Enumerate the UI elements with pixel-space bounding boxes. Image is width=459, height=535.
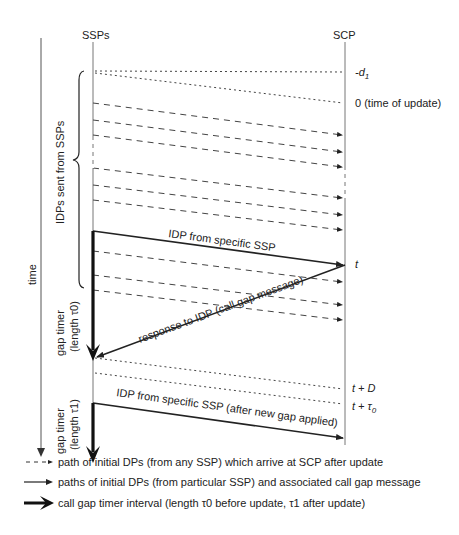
- legend: path of initial DPs (from any SSP) which…: [24, 456, 421, 510]
- response-message: response to IDP (call gap message): [97, 265, 345, 357]
- gap-timer-0-arrow: gap timer (length τ0): [54, 231, 100, 361]
- gap-timer-0-line1: gap timer: [54, 310, 66, 356]
- response-label: response to IDP (call gap message): [137, 273, 305, 345]
- idp-specific-label: IDP from specific SSP: [168, 227, 277, 253]
- call-gap-timing-diagram: SSPs SCP time IDPs sent from SSPs I: [0, 0, 459, 535]
- gap-timer-1-arrow: gap timer (length τ1): [54, 399, 100, 463]
- gap-timer-1-line2: (length τ1): [68, 399, 80, 450]
- idp-after-gap-message: IDP from specific SSP (after new gap app…: [93, 386, 343, 438]
- svg-text:paths of initial DPs (from par: paths of initial DPs (from particular SS…: [58, 476, 421, 488]
- legend-item-solid: paths of initial DPs (from particular SS…: [24, 476, 421, 488]
- idps-brace: IDPs sent from SSPs: [54, 71, 84, 288]
- time-arrow-icon: [37, 448, 45, 457]
- scp-time-marks: -d1 0 (time of update) t t + D t + τ0: [352, 66, 441, 415]
- mark-zero: 0 (time of update): [355, 97, 441, 109]
- mark-t-plus-tau0: t + τ: [352, 400, 373, 412]
- svg-text:t + τ0: t + τ0: [352, 400, 377, 415]
- mark-t-plus-D: t + D: [352, 382, 376, 394]
- ssps-lane-label: SSPs: [82, 29, 110, 41]
- scp-lane-label: SCP: [333, 29, 356, 41]
- mark-minus-d1: -d1: [355, 66, 369, 81]
- brace-label: IDPs sent from SSPs: [54, 120, 66, 224]
- dashed-idp-paths: [93, 103, 342, 320]
- svg-text:call gap timer interval (lengt: call gap timer interval (length τ0 befor…: [58, 497, 365, 509]
- time-label: time: [26, 264, 38, 285]
- legend-item-dashed: path of initial DPs (from any SSP) which…: [26, 456, 383, 468]
- mark-t: t: [355, 258, 359, 270]
- time-axis: time: [26, 38, 45, 457]
- idp-specific-message: IDP from specific SSP: [93, 227, 343, 265]
- legend-item-thick: call gap timer interval (length τ0 befor…: [24, 496, 365, 510]
- gap-timer-0-line2: (length τ0): [68, 301, 80, 352]
- svg-text:path of initial DPs (from any: path of initial DPs (from any SSP) which…: [58, 456, 383, 468]
- gap-timer-1-line1: gap timer: [54, 408, 66, 454]
